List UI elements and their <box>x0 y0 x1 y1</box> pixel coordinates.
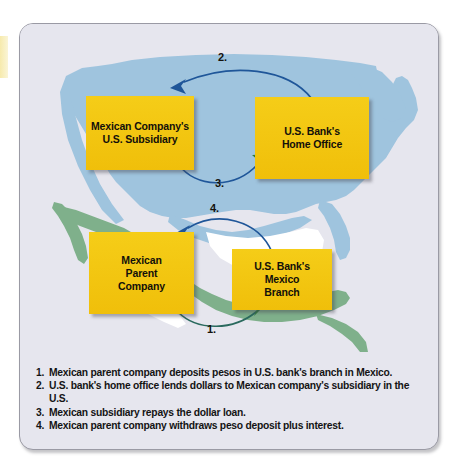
left-edge-tab-marker <box>0 36 8 78</box>
caption-number-3: 3. <box>36 406 49 419</box>
arrow-label-1: 1. <box>207 323 216 335</box>
caption-item-3: 3. Mexican subsidiary repays the dollar … <box>36 406 428 419</box>
caption-text-1: Mexican parent company deposits pesos in… <box>49 366 428 379</box>
box-mexican-parent-company: Mexican Parent Company <box>89 232 194 314</box>
caption-item-2: 2. U.S. bank's home office lends dollars… <box>36 379 428 405</box>
background-map: 2. 3. 4. 1. Mexican Company's U.S. Subsi… <box>20 24 438 354</box>
caption-text-3: Mexican subsidiary repays the dollar loa… <box>49 406 428 419</box>
arrow-label-2: 2. <box>218 51 227 63</box>
box-mexican-company-us-subsidiary: Mexican Company's U.S. Subsidiary <box>86 96 194 170</box>
caption-list: 1. Mexican parent company deposits pesos… <box>36 366 428 432</box>
arrow-label-4: 4. <box>210 202 219 214</box>
box-us-bank-home-office: U.S. Bank's Home Office <box>255 97 369 179</box>
figure-root: 2. 3. 4. 1. Mexican Company's U.S. Subsi… <box>0 0 458 474</box>
map-svg <box>20 24 438 354</box>
caption-number-4: 4. <box>36 419 49 432</box>
caption-block: 1. Mexican parent company deposits pesos… <box>36 366 428 432</box>
diagram-panel: 2. 3. 4. 1. Mexican Company's U.S. Subsi… <box>19 23 439 450</box>
box-us-bank-mexico-branch: U.S. Bank's Mexico Branch <box>232 249 332 310</box>
caption-item-1: 1. Mexican parent company deposits pesos… <box>36 366 428 379</box>
caption-text-2: U.S. bank's home office lends dollars to… <box>49 379 428 405</box>
caption-text-4: Mexican parent company withdraws peso de… <box>49 419 428 432</box>
caption-number-2: 2. <box>36 379 49 392</box>
arrow-label-3: 3. <box>215 177 224 189</box>
caption-number-1: 1. <box>36 366 49 379</box>
caption-item-4: 4. Mexican parent company withdraws peso… <box>36 419 428 432</box>
